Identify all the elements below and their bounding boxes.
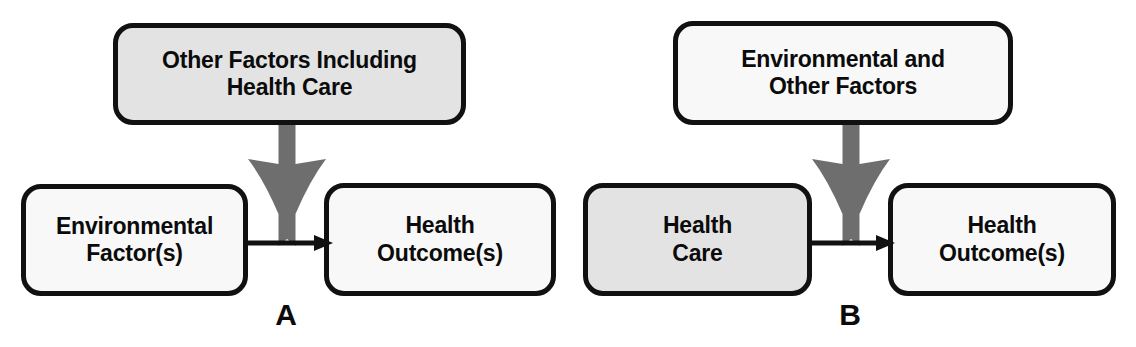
panel-a-top-node-label: Other Factors Including Health Care	[154, 47, 425, 101]
panel-a-right-node: Health Outcome(s)	[324, 183, 556, 296]
panel-b-left-node: Health Care	[583, 183, 812, 296]
panel-a-connector-arrow	[243, 232, 335, 254]
panel-a-right-node-label: Health Outcome(s)	[369, 212, 511, 266]
panel-a: Other Factors Including Health Care Envi…	[0, 0, 568, 347]
panel-b-top-node-label: Environmental and Other Factors	[733, 46, 953, 100]
panel-a-left-node: Environmental Factor(s)	[21, 184, 248, 296]
panel-a-letter: A	[256, 298, 316, 332]
panel-a-top-node: Other Factors Including Health Care	[113, 23, 466, 125]
panel-b: Environmental and Other Factors Health C…	[568, 0, 1136, 347]
panel-b-connector-arrow	[807, 232, 899, 254]
panel-b-right-node-label: Health Outcome(s)	[931, 212, 1073, 266]
panel-b-letter: B	[820, 298, 880, 332]
panel-a-left-node-label: Environmental Factor(s)	[48, 213, 221, 267]
panel-b-left-node-label: Health Care	[655, 212, 740, 266]
panel-b-right-node: Health Outcome(s)	[888, 183, 1116, 296]
panel-a-block-arrow-down	[247, 118, 327, 246]
diagram-figure: Other Factors Including Health Care Envi…	[0, 0, 1136, 347]
panel-b-top-node: Environmental and Other Factors	[673, 21, 1013, 125]
panel-b-block-arrow-down	[811, 118, 891, 246]
